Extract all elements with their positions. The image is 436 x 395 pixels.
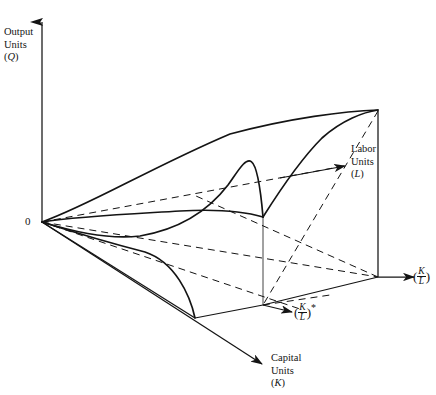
output-axis-label-line1: Output: [4, 26, 33, 39]
paren-close: ): [360, 168, 364, 179]
production-curves: [42, 110, 378, 318]
frame-base-to-right-vertex: [263, 277, 378, 305]
capital-axis-label: Capital Units (K): [271, 352, 301, 390]
output-axis-label-line2: Units: [4, 39, 33, 52]
kl-fraction: KL: [417, 267, 425, 287]
paren-close: ): [15, 51, 19, 62]
kl-denominator: L: [417, 277, 425, 287]
dashed-lower-ray: [42, 222, 300, 309]
paren-close: ): [426, 269, 430, 284]
capital-axis-label-line2: Units: [271, 365, 301, 378]
capital-axis-symbol: (K): [271, 377, 301, 390]
production-function-diagram: [0, 0, 436, 395]
labor-label-arrow: [280, 166, 345, 178]
frame-front-bottom-edge: [195, 305, 263, 318]
labor-axis-label-line1: Labor: [351, 143, 376, 156]
kl-optimal-denominator: L: [298, 313, 306, 323]
kl-optimal-label: (KL)*: [294, 302, 316, 323]
kl-optimal-fraction: KL: [298, 303, 306, 323]
capital-axis-label-line1: Capital: [271, 352, 301, 365]
label-arrows: [263, 166, 414, 312]
output-axis-label: Output Units (Q): [4, 26, 33, 64]
lower-surface-curve: [42, 210, 263, 222]
dashed-right-to-upperleft: [196, 196, 378, 277]
kl-optimal-arrow: [263, 305, 292, 312]
origin-label: 0: [25, 215, 31, 228]
labor-axis-label: Labor Units (L): [351, 143, 376, 181]
labor-axis-line: [42, 168, 342, 222]
output-axis-symbol: (Q): [4, 51, 33, 64]
dashed-mid-ray: [42, 222, 378, 277]
front-boundary-curve: [42, 161, 263, 237]
output-variable: Q: [8, 51, 16, 62]
paren-close: ): [282, 377, 286, 388]
labor-axis-label-line2: Units: [351, 156, 376, 169]
kl-ratio-label: (KL): [413, 267, 430, 287]
kl-optimal-star: *: [311, 302, 316, 313]
labor-axis-symbol: (L): [351, 168, 376, 181]
capital-variable: K: [275, 377, 282, 388]
